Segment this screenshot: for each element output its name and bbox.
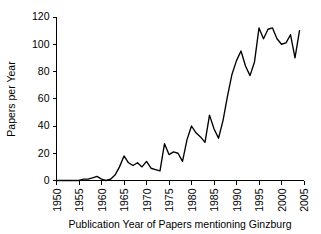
y-tick-label: 0 <box>44 174 50 186</box>
y-tick-marks <box>53 17 57 181</box>
x-tick-labels: 1950195519601965197019751980198519901995… <box>51 188 311 212</box>
x-tick-label: 1995 <box>253 188 265 212</box>
x-tick-label: 1955 <box>73 188 85 212</box>
y-tick-label: 20 <box>38 147 50 159</box>
y-tick-label: 40 <box>38 119 50 131</box>
data-series-papers-per-year <box>57 28 300 181</box>
x-tick-label: 1970 <box>141 188 153 212</box>
x-axis-title: Publication Year of Papers mentioning Gi… <box>69 218 292 230</box>
x-tick-label: 1980 <box>186 188 198 212</box>
x-tick-label: 1965 <box>118 188 130 212</box>
y-tick-labels: 020406080100120 <box>32 10 50 186</box>
x-tick-label: 2000 <box>276 188 288 212</box>
x-tick-marks <box>57 181 305 185</box>
x-tick-label: 1985 <box>208 188 220 212</box>
x-tick-label: 1990 <box>231 188 243 212</box>
y-tick-label: 100 <box>32 38 50 50</box>
x-tick-label: 1960 <box>96 188 108 212</box>
line-chart: 020406080100120 195019551960196519701975… <box>0 0 321 234</box>
x-tick-label: 1975 <box>163 188 175 212</box>
x-tick-label: 2005 <box>298 188 310 212</box>
x-tick-label: 1950 <box>51 188 63 212</box>
y-tick-label: 80 <box>38 65 50 77</box>
chart-figure: 020406080100120 195019551960196519701975… <box>0 0 321 234</box>
y-tick-label: 120 <box>32 10 50 22</box>
y-axis-title: Papers per Year <box>5 61 17 137</box>
y-tick-label: 60 <box>38 92 50 104</box>
